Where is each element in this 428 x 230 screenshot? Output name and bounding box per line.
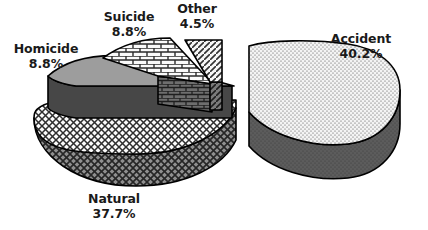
slice-label-natural-value: 37.7% [74,207,154,222]
slice-label-natural-name: Natural [74,192,154,207]
slice-label-other-name: Other [166,2,228,17]
pie-chart-figure: Accident 40.2% Homicide 8.8% Suicide 8.8… [0,0,428,230]
slice-label-other: Other 4.5% [166,2,228,32]
slice-label-suicide-name: Suicide [93,10,165,25]
slice-label-homicide-value: 8.8% [2,57,90,72]
slice-label-homicide-name: Homicide [2,42,90,57]
slice-label-homicide: Homicide 8.8% [2,42,90,72]
slice-label-suicide: Suicide 8.8% [93,10,165,40]
slice-label-accident-value: 40.2% [318,47,404,62]
slice-label-accident-name: Accident [318,32,404,47]
pie-slice-other-side [210,82,222,110]
slice-label-natural: Natural 37.7% [74,192,154,222]
slice-label-suicide-value: 8.8% [93,25,165,40]
slice-label-accident: Accident 40.2% [318,32,404,62]
slice-label-other-value: 4.5% [166,17,228,32]
